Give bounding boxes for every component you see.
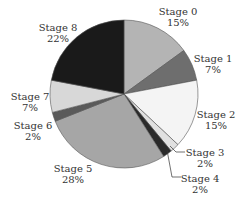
slice-label-stage-2: Stage 215% <box>197 109 236 131</box>
slice-label-name: Stage 0 <box>159 6 198 17</box>
slice-label-name: Stage 8 <box>39 22 78 33</box>
slice-label-percent: 7% <box>11 102 50 113</box>
slice-label-percent: 15% <box>159 17 198 28</box>
slice-label-percent: 2% <box>181 184 220 195</box>
slice-label-stage-0: Stage 015% <box>159 6 198 28</box>
slice-label-name: Stage 7 <box>11 91 50 102</box>
slice-label-name: Stage 1 <box>194 53 233 64</box>
slice-label-percent: 7% <box>194 64 233 75</box>
slice-label-percent: 28% <box>54 174 93 185</box>
slice-label-percent: 15% <box>197 120 236 131</box>
slice-label-name: Stage 4 <box>181 173 220 184</box>
slice-label-percent: 22% <box>39 33 78 44</box>
slice-label-stage-5: Stage 528% <box>54 163 93 185</box>
slice-label-stage-1: Stage 17% <box>194 53 233 75</box>
slice-label-percent: 2% <box>186 158 225 169</box>
slice-label-stage-8: Stage 822% <box>39 22 78 44</box>
slice-label-percent: 2% <box>14 131 53 142</box>
slice-label-name: Stage 6 <box>14 120 53 131</box>
slice-label-stage-7: Stage 77% <box>11 91 50 113</box>
slice-label-stage-6: Stage 62% <box>14 120 53 142</box>
slice-label-name: Stage 3 <box>186 147 225 158</box>
slice-label-stage-4: Stage 42% <box>181 173 220 195</box>
slice-label-stage-3: Stage 32% <box>186 147 225 169</box>
slice-label-name: Stage 2 <box>197 109 236 120</box>
slice-label-name: Stage 5 <box>54 163 93 174</box>
leader-line-stage-4 <box>167 150 181 177</box>
